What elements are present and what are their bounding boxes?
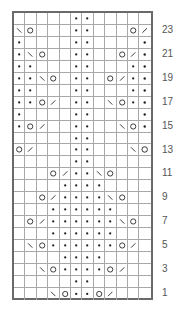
chart-cell [94,144,105,156]
chart-cell [48,288,59,300]
purl-dot-icon [71,168,81,179]
chart-cell [82,121,93,133]
chart-cell [37,121,48,133]
chart-cell [139,192,150,204]
purl-dot-icon [48,240,58,251]
chart-cell [14,168,25,180]
chart-cell [117,121,128,133]
yarn-over-circle-icon [94,288,104,300]
chart-cell [82,61,93,73]
purl-dot-icon [71,264,81,275]
purl-dot-icon [82,264,92,275]
chart-cell [71,25,82,37]
chart-cell [60,25,71,37]
purl-dot-icon [105,204,115,215]
chart-cell [71,73,82,85]
chart-cell [25,192,36,204]
chart-cell [117,49,128,61]
chart-cell [117,73,128,85]
chart-cell [128,252,139,264]
purl-dot-icon [139,97,150,108]
chart-cell [82,288,93,300]
chart-cell [71,264,82,276]
purl-dot-icon [71,288,81,300]
chart-cell [139,204,150,216]
chart-cell [14,144,25,156]
k2tog-slash-icon [48,192,58,203]
purl-dot-icon [82,49,92,60]
chart-cell [25,228,36,240]
purl-dot-icon [14,121,24,132]
chart-grid [14,13,151,300]
chart-cell [37,85,48,97]
chart-cell [60,144,71,156]
chart-cell [128,73,139,85]
chart-cell [117,288,128,300]
chart-cell [128,109,139,121]
chart-cell [14,264,25,276]
yarn-over-circle-icon [25,216,35,227]
chart-cell [94,49,105,61]
chart-cell [14,73,25,85]
chart-cell [14,288,25,300]
chart-cell [60,73,71,85]
k2tog-slash-icon [25,144,35,155]
chart-cell [94,276,105,288]
chart-cell [82,204,93,216]
chart-cell [37,276,48,288]
purl-dot-icon [82,228,92,239]
yarn-over-circle-icon [25,121,35,132]
chart-cell [37,73,48,85]
purl-dot-icon [60,192,70,203]
chart-cell [25,240,36,252]
k2tog-slash-icon [37,121,47,132]
purl-dot-icon [82,192,92,203]
chart-cell [82,109,93,121]
chart-cell [25,85,36,97]
yarn-over-circle-icon [37,49,47,60]
chart-cell [14,252,25,264]
ssk-backslash-icon [25,49,35,60]
chart-cell [94,204,105,216]
chart-cell [71,13,82,25]
yarn-over-circle-icon [139,144,150,155]
chart-cell [94,192,105,204]
purl-dot-icon [82,240,92,251]
ssk-backslash-icon [14,25,24,36]
purl-dot-icon [94,216,104,227]
purl-dot-icon [71,73,81,84]
chart-cell [105,49,116,61]
chart-cell [37,204,48,216]
yarn-over-circle-icon [105,73,115,84]
chart-cell [82,97,93,109]
chart-cell [139,109,150,121]
chart-cell [71,121,82,133]
purl-dot-icon [94,192,104,203]
chart-cell [128,37,139,49]
chart-cell [14,85,25,97]
k2tog-slash-icon [128,49,138,60]
chart-cell [25,276,36,288]
chart-cell [128,168,139,180]
k2tog-slash-icon [117,264,127,275]
chart-cell [82,168,93,180]
chart-cell [60,288,71,300]
purl-dot-icon [14,73,24,84]
chart-cell [14,25,25,37]
chart-cell [128,216,139,228]
yarn-over-circle-icon [48,73,58,84]
purl-dot-icon [71,156,81,167]
chart-cell [128,121,139,133]
chart-cell [94,228,105,240]
yarn-over-circle-icon [105,264,115,275]
chart-cell [14,13,25,25]
chart-cell [128,180,139,192]
chart-cell [37,180,48,192]
k2tog-slash-icon [48,97,58,108]
chart-cell [60,192,71,204]
chart-cell [105,180,116,192]
chart-cell [37,133,48,145]
chart-cell [128,156,139,168]
purl-dot-icon [14,37,24,48]
chart-cell [94,61,105,73]
